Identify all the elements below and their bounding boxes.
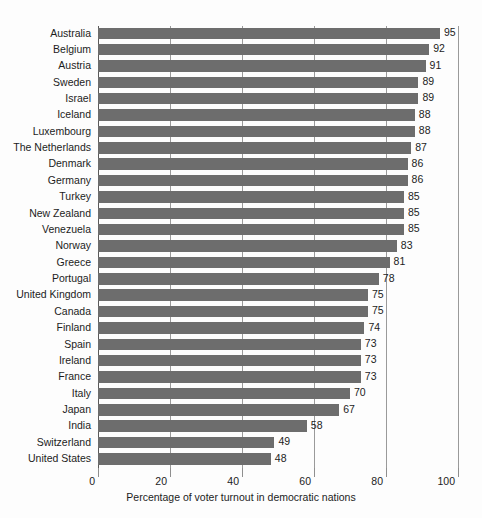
bar-value-label: 89 — [422, 90, 434, 104]
bar-row: 67 — [98, 403, 458, 419]
bar — [98, 60, 426, 72]
bar-row: 86 — [98, 173, 458, 189]
bar — [98, 77, 418, 89]
bar-row: 89 — [98, 91, 458, 107]
category-label: United States — [28, 452, 91, 465]
gridline-100 — [458, 26, 459, 468]
bar-value-label: 73 — [365, 336, 377, 350]
x-axis: 020406080100 — [98, 468, 458, 490]
x-tick-40 — [242, 468, 243, 477]
bar-value-label: 86 — [412, 172, 424, 186]
bar — [98, 142, 411, 154]
bar-value-label: 49 — [278, 434, 290, 448]
x-tick-label: 80 — [371, 474, 386, 488]
category-axis-labels: AustraliaBelgiumAustriaSwedenIsraelIcela… — [0, 26, 94, 468]
bar — [98, 355, 361, 367]
bar-value-label: 95 — [444, 25, 456, 39]
category-label: Greece — [57, 256, 91, 269]
bar — [98, 289, 368, 301]
bar-value-label: 81 — [394, 254, 406, 268]
bar-value-label: 83 — [401, 238, 413, 252]
bar — [98, 339, 361, 351]
x-axis-title: Percentage of voter turnout in democrati… — [0, 490, 482, 504]
bar — [98, 175, 408, 187]
category-label: Israel — [65, 92, 91, 105]
plot-area: 9592918989888887868685858583817875757473… — [98, 26, 458, 468]
bar — [98, 306, 368, 318]
x-tick-80 — [386, 468, 387, 477]
bar-value-label: 86 — [412, 156, 424, 170]
bar — [98, 404, 339, 416]
bar-value-label: 75 — [372, 303, 384, 317]
bar — [98, 44, 429, 56]
bar-row: 95 — [98, 26, 458, 42]
category-label: Portugal — [52, 272, 91, 285]
bar-value-label: 58 — [311, 418, 323, 432]
bar-row: 83 — [98, 239, 458, 255]
bar-value-label: 85 — [408, 189, 420, 203]
x-tick-label: 100 — [437, 474, 458, 488]
bar-value-label: 73 — [365, 369, 377, 383]
category-label: Germany — [48, 174, 91, 187]
bar-row: 85 — [98, 222, 458, 238]
bar-value-label: 89 — [422, 74, 434, 88]
bar-row: 48 — [98, 452, 458, 468]
x-tick-label: 20 — [155, 474, 170, 488]
bar-value-label: 88 — [419, 107, 431, 121]
bar-row: 73 — [98, 370, 458, 386]
bar-row: 49 — [98, 435, 458, 451]
bar — [98, 371, 361, 383]
category-label: Venezuela — [42, 223, 91, 236]
bar — [98, 191, 404, 203]
bar — [98, 453, 271, 465]
bar-value-label: 78 — [383, 271, 395, 285]
bar-row: 78 — [98, 272, 458, 288]
bar-row: 88 — [98, 124, 458, 140]
x-tick-0 — [98, 468, 99, 477]
bar-value-label: 85 — [408, 205, 420, 219]
bar — [98, 93, 418, 105]
bar-row: 73 — [98, 337, 458, 353]
bar-row: 91 — [98, 59, 458, 75]
bar-row: 74 — [98, 321, 458, 337]
bar — [98, 322, 364, 334]
bar-rows: 9592918989888887868685858583817875757473… — [98, 26, 458, 468]
bar — [98, 388, 350, 400]
bar-row: 73 — [98, 353, 458, 369]
category-label: Italy — [72, 387, 91, 400]
category-label: Norway — [55, 239, 91, 252]
bar-value-label: 92 — [433, 41, 445, 55]
bar — [98, 257, 390, 269]
bar — [98, 240, 397, 252]
bar-row: 92 — [98, 42, 458, 58]
x-tick-label: 0 — [89, 474, 98, 488]
bar — [98, 224, 404, 236]
bar-value-label: 73 — [365, 352, 377, 366]
bar-row: 87 — [98, 141, 458, 157]
x-tick-20 — [170, 468, 171, 477]
x-tick-label: 40 — [227, 474, 242, 488]
category-label: France — [58, 370, 91, 383]
category-label: Sweden — [53, 76, 91, 89]
category-label: New Zealand — [29, 207, 91, 220]
bar-value-label: 88 — [419, 123, 431, 137]
bar-value-label: 87 — [415, 140, 427, 154]
category-label: Austria — [58, 59, 91, 72]
bar — [98, 273, 379, 285]
bar-value-label: 67 — [343, 402, 355, 416]
bar-row: 88 — [98, 108, 458, 124]
category-label: Turkey — [59, 190, 91, 203]
bar-value-label: 48 — [275, 451, 287, 465]
bar-value-label: 91 — [430, 58, 442, 72]
category-label: Iceland — [57, 108, 91, 121]
bar-value-label: 74 — [368, 320, 380, 334]
bar-row: 85 — [98, 190, 458, 206]
bar — [98, 109, 415, 121]
x-tick-100 — [458, 468, 459, 477]
category-label: Ireland — [59, 354, 91, 367]
bar-value-label: 85 — [408, 221, 420, 235]
bar — [98, 420, 307, 432]
category-label: Luxembourg — [33, 125, 91, 138]
category-label: Belgium — [53, 43, 91, 56]
category-label: Canada — [54, 305, 91, 318]
